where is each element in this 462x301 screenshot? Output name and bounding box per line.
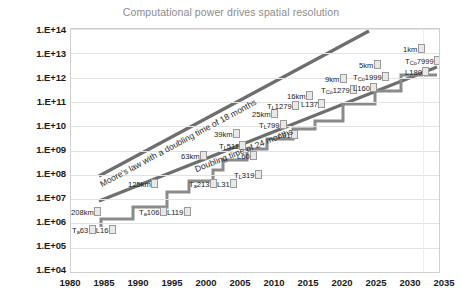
config-10-subscript: Co [410, 60, 417, 66]
y-axis-tick-1e07: 1.E+07 [4, 192, 66, 203]
config-3-value: 213 [197, 180, 210, 189]
config-10-value: 7999 [417, 57, 434, 66]
annotation-res-5km-text: 5km [359, 61, 373, 70]
annotation-config-7-levels: L137 [301, 99, 325, 109]
config-4-value: 319 [242, 171, 255, 180]
annotation-config-3: Ta213L31 [189, 179, 237, 191]
missing-glyph-icon [255, 170, 262, 179]
annotation-config-1: Ta63L16 [72, 225, 116, 237]
annotation-res-5km: 5km [359, 60, 381, 70]
chart-title: Computational power drives spatial resol… [0, 6, 462, 18]
config-8-value: 1279 [333, 86, 350, 95]
missing-glyph-icon [109, 225, 116, 234]
gridline-h-1e14 [71, 29, 439, 30]
missing-glyph-icon [151, 179, 158, 188]
gridline-h-1e07 [71, 199, 439, 200]
y-axis-tick-1e05: 1.E+05 [4, 240, 66, 251]
config-2-value: 106 [147, 208, 160, 217]
config-3-second: L31 [217, 180, 230, 189]
y-axis-tick-1e12: 1.E+12 [4, 72, 66, 83]
annotation-res-39km: 39km [214, 129, 240, 139]
annotation-res-39km-text: 39km [214, 130, 233, 139]
gridline-h-1e13 [71, 53, 439, 54]
gridline-h-1e06 [71, 223, 439, 224]
missing-glyph-icon [318, 99, 325, 108]
annotation-res-1km: 1km [403, 44, 425, 54]
annotation-res-125km: 125km [128, 179, 158, 189]
annotation-config-9-levels: L160 [353, 83, 377, 93]
y-axis-tick-1e04: 1.E+04 [4, 264, 66, 275]
missing-glyph-icon [184, 207, 191, 216]
config-6-value: 799 [267, 121, 280, 130]
y-axis-tick-1e08: 1.E+08 [4, 168, 66, 179]
annotation-config-8: TCo1279 [321, 85, 357, 97]
x-axis-tick-2035: 2035 [422, 277, 462, 288]
y-axis-tick-1e09: 1.E+09 [4, 144, 66, 155]
annotation-res-63km-text: 63km [181, 152, 200, 161]
missing-glyph-icon [160, 207, 167, 216]
config-9-value: 1999 [365, 73, 382, 82]
annotation-res-208km-text: 208km [71, 208, 94, 217]
config-2-second: L119 [167, 208, 183, 217]
annotation-config-7: TL1279 [267, 101, 299, 113]
config-10-second: L180 [405, 68, 422, 77]
missing-glyph-icon [233, 129, 240, 138]
plot-area: 208km 125km 63km 39km 25km 16km 9km 5km … [70, 28, 440, 273]
missing-glyph-icon [422, 67, 429, 76]
missing-glyph-icon [94, 207, 101, 216]
y-axis-tick-1e13: 1.E+13 [4, 48, 66, 59]
missing-glyph-icon [89, 225, 96, 234]
annotation-config-10-levels: L180 [405, 67, 429, 77]
annotation-config-2: Ta106L119 [139, 207, 191, 219]
annotation-config-4: TL319 [234, 170, 262, 182]
config-9-second: L160 [353, 84, 370, 93]
missing-glyph-icon [370, 83, 377, 92]
config-9-subscript: Co [358, 76, 365, 82]
annotation-res-9km: 9km [325, 74, 347, 84]
missing-glyph-icon [210, 179, 217, 188]
gridline-h-1e10 [71, 126, 439, 127]
missing-glyph-icon [382, 72, 389, 81]
config-1-second: L16 [96, 226, 109, 235]
annotation-res-9km-text: 9km [325, 75, 339, 84]
annotation-res-125km-text: 125km [128, 180, 151, 189]
y-axis-tick-1e14: 1.E+14 [4, 24, 66, 35]
config-8-subscript: Co [326, 89, 333, 95]
config-1-value: 63 [80, 226, 88, 235]
missing-glyph-icon [340, 74, 347, 83]
gridline-h-1e05 [71, 248, 439, 249]
annotation-res-208km: 208km [71, 207, 101, 217]
missing-glyph-icon [418, 44, 425, 53]
y-axis-tick-1e10: 1.E+10 [4, 120, 66, 131]
chart-container: Computational power drives spatial resol… [0, 0, 462, 301]
y-axis-tick-1e11: 1.E+11 [4, 96, 66, 107]
config-7-second: L137 [301, 100, 318, 109]
config-7-value: 1279 [275, 102, 292, 111]
missing-glyph-icon [374, 60, 381, 69]
annotation-res-1km-text: 1km [403, 45, 417, 54]
missing-glyph-icon [292, 101, 299, 110]
y-axis-tick-1e06: 1.E+06 [4, 216, 66, 227]
